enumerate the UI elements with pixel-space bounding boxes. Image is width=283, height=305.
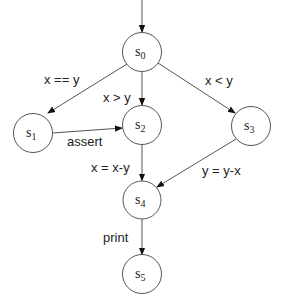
node-s1: s1	[14, 114, 53, 153]
edge-s0-s3	[158, 63, 235, 113]
node-s2: s2	[123, 106, 162, 145]
node-s5: s5	[123, 255, 162, 294]
edge-label-s4-s5: print	[103, 230, 129, 245]
edge-label-s3-s4: y = y-x	[202, 163, 241, 178]
node-s3: s3	[232, 107, 271, 146]
node-s0: s0	[123, 33, 162, 72]
state-diagram: x == y x > y x < y assert x = x-y y = y-…	[0, 0, 283, 305]
edge-s1-s2	[53, 128, 123, 133]
edge-label-s0-s2: x > y	[103, 90, 131, 105]
edge-label-s2-s4: x = x-y	[91, 160, 130, 175]
edge-label-s0-s3: x < y	[205, 73, 233, 88]
edge-label-s1-s2: assert	[67, 134, 103, 149]
edge-label-s0-s1: x == y	[44, 72, 80, 87]
node-s4: s4	[123, 181, 161, 219]
